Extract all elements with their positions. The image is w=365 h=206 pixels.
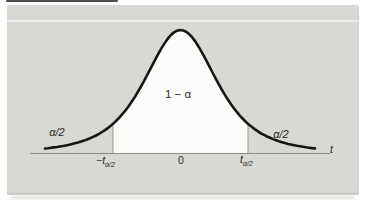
distribution-curve-plot — [0, 0, 365, 206]
right-tail-alpha-label: α/2 — [265, 129, 297, 140]
right-critical-subscript: α/2 — [243, 160, 253, 167]
zero-tick-label: 0 — [171, 155, 191, 166]
right-critical-value-label: tα/2 — [240, 154, 253, 167]
axis-variable-label: t — [330, 144, 333, 155]
figure-page: α/2 α/2 1 − α 0 −tα/2 tα/2 t — [0, 0, 365, 206]
left-critical-value-label: −tα/2 — [96, 155, 115, 168]
center-region-label: 1 − α — [148, 89, 208, 101]
left-tail-alpha-label: α/2 — [41, 127, 73, 138]
left-critical-symbol: −t — [96, 154, 105, 166]
left-critical-subscript: α/2 — [105, 161, 115, 168]
